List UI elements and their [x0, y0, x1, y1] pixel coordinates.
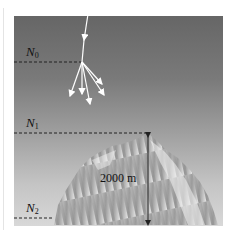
label-n0: N0 — [26, 45, 39, 60]
label-n2: N2 — [26, 201, 39, 216]
label-n1: N1 — [26, 116, 39, 131]
height-label: 2000 m — [100, 172, 136, 184]
shower-arrows — [70, 14, 104, 104]
